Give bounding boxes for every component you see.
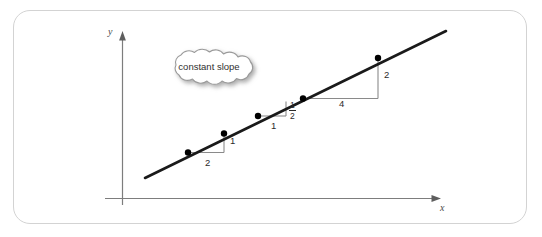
data-point — [375, 55, 381, 61]
x-axis — [105, 195, 441, 202]
left-triangle-rise-label: 1 — [230, 136, 235, 146]
plot-canvas — [0, 0, 542, 237]
data-point — [300, 95, 306, 101]
middle-triangle-rise-fraction: 1 2 — [289, 101, 296, 120]
data-point — [185, 149, 191, 155]
y-axis — [119, 31, 126, 205]
data-point — [255, 113, 261, 119]
y-axis-label: y — [108, 27, 112, 37]
figure-root: y x 2 1 1 1 2 4 2 constant slope — [0, 0, 542, 237]
right-triangle-run-label: 4 — [339, 99, 344, 109]
left-triangle-run-label: 2 — [205, 158, 210, 168]
x-axis-label: x — [440, 203, 444, 213]
slope-triangle-right — [303, 58, 378, 99]
middle-triangle-run-label: 1 — [271, 121, 276, 131]
data-point — [221, 130, 227, 136]
callout-text: constant slope — [163, 62, 255, 72]
fraction-denominator: 2 — [289, 111, 296, 120]
slope-triangle-middle — [258, 102, 286, 117]
fraction-numerator: 1 — [289, 101, 296, 111]
right-triangle-rise-label: 2 — [384, 70, 389, 80]
